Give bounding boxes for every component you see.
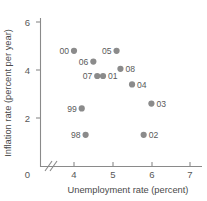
chart-canvas: 6 4 2 0 4 5 6 7 Unemployment rate (perce…: [0, 0, 207, 201]
data-point-label-01: 01: [108, 71, 118, 81]
data-point-label-04: 04: [137, 80, 147, 90]
data-point-label-05: 05: [102, 46, 112, 56]
data-point-04: [129, 81, 135, 87]
x-axis-title: Unemployment rate (percent): [68, 185, 189, 195]
data-point-06: [90, 59, 96, 65]
data-point-08: [117, 66, 123, 72]
y-tick-label-2: 2: [25, 113, 30, 124]
x-tick-label-7: 7: [187, 169, 192, 180]
data-point-label-98: 98: [71, 130, 81, 140]
data-point-99: [79, 105, 85, 111]
x-tick-label-5: 5: [110, 169, 115, 180]
data-point-label-06: 06: [79, 57, 89, 67]
data-point-label-02: 02: [149, 130, 159, 140]
scatter-chart: 6 4 2 0 4 5 6 7 Unemployment rate (perce…: [0, 0, 207, 201]
data-point-00: [71, 48, 77, 54]
x-tick-label-4: 4: [71, 169, 76, 180]
data-point-05: [113, 48, 119, 54]
data-point-01: [100, 73, 106, 79]
origin-tick-label: 0: [25, 169, 30, 180]
y-tick-label-4: 4: [25, 65, 30, 76]
x-tick-label-6: 6: [149, 169, 154, 180]
data-point-label-03: 03: [156, 99, 166, 109]
data-point-label-00: 00: [59, 46, 69, 56]
data-points-layer: 0005060807010403999802: [59, 46, 166, 140]
y-axis-title: Inflation rate (percent per year): [3, 29, 13, 157]
data-point-03: [148, 101, 154, 107]
data-point-label-07: 07: [83, 71, 93, 81]
y-tick-label-6: 6: [25, 17, 30, 28]
data-point-label-99: 99: [67, 104, 77, 114]
data-point-98: [83, 132, 89, 138]
data-point-label-08: 08: [125, 64, 135, 74]
data-point-02: [141, 132, 147, 138]
data-point-07: [94, 73, 100, 79]
